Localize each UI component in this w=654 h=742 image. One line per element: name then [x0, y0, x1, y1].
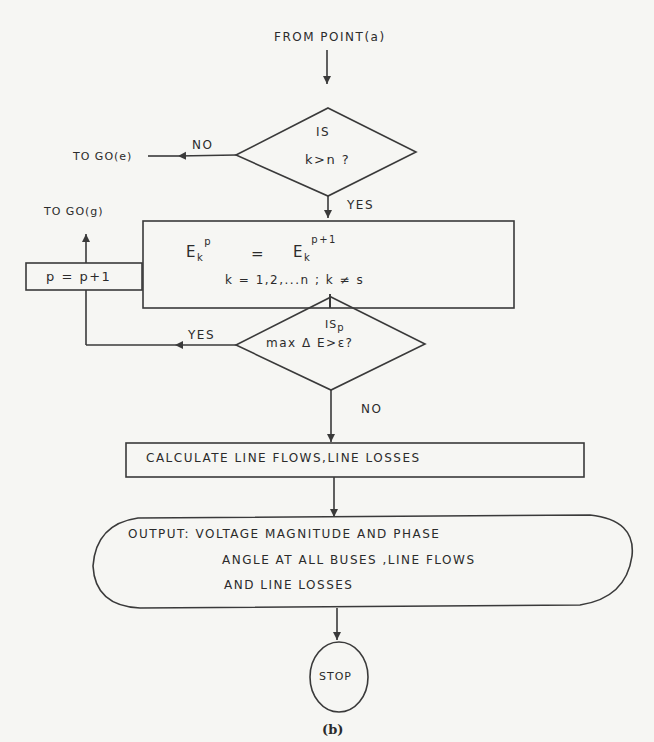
- process1-rhs: Ekp+1: [293, 242, 337, 263]
- arrow-no-to-go-e: [178, 155, 236, 156]
- process1-lhs: Ekp: [186, 242, 212, 263]
- start-label: FROM POINT(a): [274, 30, 386, 44]
- go-g-label: TO GO(g): [44, 205, 104, 218]
- decision1-line1: IS: [316, 125, 330, 139]
- decision2-yes-label: YES: [188, 328, 215, 342]
- output-line3: AND LINE LOSSES: [224, 578, 353, 592]
- process2-label: CALCULATE LINE FLOWS,LINE LOSSES: [146, 451, 421, 465]
- decision1-no-label: NO: [192, 138, 213, 152]
- decision2-line1: ISp: [325, 318, 345, 333]
- decision2-no-label: NO: [361, 402, 382, 416]
- decision2-line2: max Δ E>ε?: [266, 336, 354, 350]
- go-e-label: TO GO(e): [73, 150, 132, 163]
- figure-caption: (b): [322, 722, 343, 737]
- increment-label: p = p+1: [46, 269, 111, 284]
- decision1-yes-label: YES: [347, 198, 374, 212]
- output-line2: ANGLE AT ALL BUSES ,LINE FLOWS: [222, 553, 476, 567]
- process1-condition: k = 1,2,...n ; k ≠ s: [225, 273, 364, 287]
- process1-equals: =: [251, 245, 265, 263]
- output-line1: OUTPUT: VOLTAGE MAGNITUDE AND PHASE: [128, 527, 440, 541]
- decision1-line2: k>n ?: [305, 152, 350, 167]
- flowchart-connectors: [0, 0, 654, 742]
- stop-label: STOP: [319, 670, 352, 683]
